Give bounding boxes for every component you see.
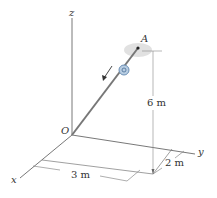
ground-line-x [42,160,153,174]
collar [119,65,129,75]
y-distance-label: 2 m [165,158,184,168]
rod [72,48,138,135]
motion-arrow-shaft [104,66,112,78]
x-axis [20,135,72,178]
y-axis-label: y [198,147,204,157]
origin-label: O [61,126,69,136]
point-a-label: A [141,34,148,44]
z-axis-label: z [69,8,74,18]
dim-3m-right [100,176,127,181]
height-dimension-label: 6 m [147,98,166,108]
point-shadow [124,43,152,57]
y-axis [72,135,195,154]
diagram-svg [0,0,217,198]
motion-arrow-head [102,75,107,81]
point-a [136,46,139,49]
x-axis-label: x [11,175,17,185]
dim-2m-line [153,168,162,174]
x-distance-label: 3 m [71,170,90,180]
diagram-canvas: z y x O A 6 m 3 m 2 m [0,0,217,198]
dim-3m-left [33,166,60,170]
